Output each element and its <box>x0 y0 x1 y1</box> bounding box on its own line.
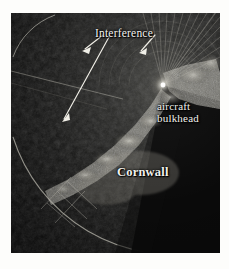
annotation-aircraft-bulkhead: aircraftbulkhead <box>157 101 199 125</box>
annotation-aircraft-bulkhead-line1: aircraft <box>157 100 190 112</box>
annotation-cornwall: Cornwall <box>117 166 169 180</box>
annotation-aircraft-bulkhead-line2: bulkhead <box>157 113 199 125</box>
figure-canvas: Interference aircraftbulkhead Cornwall <box>0 0 229 269</box>
radar-display-plate: Interference aircraftbulkhead Cornwall <box>11 13 220 253</box>
annotation-interference: Interference <box>95 27 153 39</box>
radar-ppi-image <box>11 13 220 253</box>
